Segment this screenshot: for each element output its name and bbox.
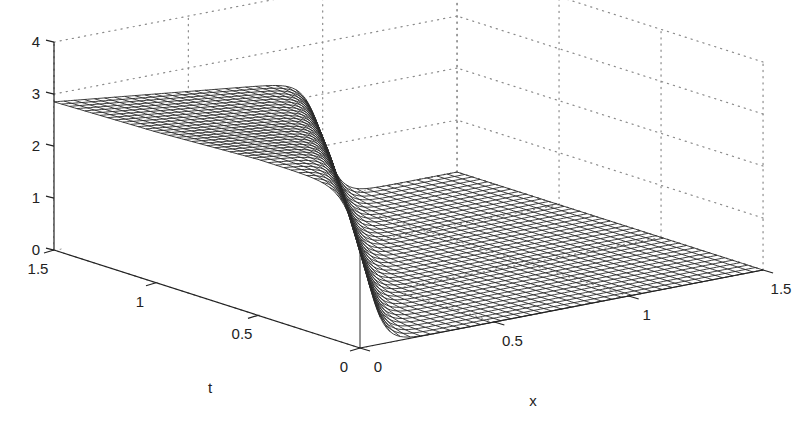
t-axis-label: t [208,379,213,396]
z-tick-label: 0 [32,241,40,258]
x-tick-label: 1.5 [771,280,792,297]
x-tick-label: 1 [643,306,651,323]
t-tick-label: 1.5 [28,260,49,277]
z-tick-label: 2 [32,137,40,154]
z-tick-label: 1 [32,189,40,206]
z-tick-label: 4 [32,33,40,50]
z-tick-label: 3 [32,85,40,102]
x-tick-label: 0.5 [502,332,523,349]
x-tick-label: 0 [374,358,382,375]
t-tick-label: 1 [136,293,144,310]
surface-mesh [54,86,763,348]
x-axis-label: x [529,392,537,409]
t-tick-label: 0.5 [232,325,253,342]
surface-plot: 0123400.511.500.511.5 t x [0,0,809,431]
t-tick-label: 0 [340,358,348,375]
